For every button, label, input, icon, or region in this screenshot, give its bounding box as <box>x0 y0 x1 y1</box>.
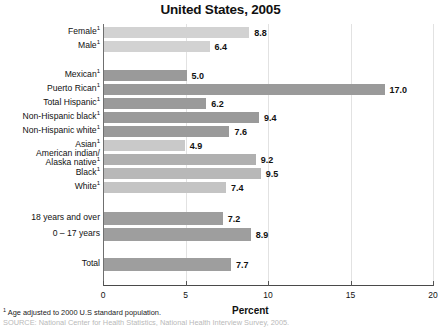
bar-value-label: 8.9 <box>256 230 269 240</box>
footnote-marker-icon: 1 <box>97 96 100 102</box>
bar-value-label: 7.4 <box>231 183 244 193</box>
footnote-marker-icon: 1 <box>97 138 100 144</box>
bar-value-label: 6.4 <box>215 42 228 52</box>
x-tick-label-20: 20 <box>428 290 437 300</box>
bar[interactable] <box>104 258 231 271</box>
category-label-line: Mexican1 <box>0 70 100 79</box>
footnote-marker-icon: 1 <box>97 124 100 130</box>
category-label-line: White1 <box>0 182 100 191</box>
footnote-marker-icon: 1 <box>97 39 100 45</box>
bar[interactable] <box>104 84 385 95</box>
x-tick-20 <box>433 281 434 286</box>
footnote-marker-icon: 1 <box>97 68 100 74</box>
footnote-age-adjusted: 1 Age adjusted to 2000 U.S standard popu… <box>3 308 161 317</box>
x-tick-15 <box>351 281 352 286</box>
bar-value-label: 9.5 <box>266 169 279 179</box>
bar-value-label: 7.2 <box>228 214 241 224</box>
bar-row[interactable]: 7.4 <box>103 182 433 193</box>
footnote-marker-icon: 1 <box>97 156 100 162</box>
category-label: Male1 <box>0 41 100 50</box>
footnote-text: Age adjusted to 2000 U.S standard popula… <box>6 308 161 317</box>
category-label: Non-Hispanic white1 <box>0 126 100 135</box>
bar-row[interactable]: 9.4 <box>103 112 433 123</box>
bar[interactable] <box>104 98 206 109</box>
bar-value-label: 6.2 <box>211 99 224 109</box>
bar-value-label: 9.4 <box>264 113 277 123</box>
bar-row[interactable]: 7.6 <box>103 126 433 137</box>
bar[interactable] <box>104 126 229 137</box>
footnote-marker-icon: 1 <box>97 166 100 172</box>
category-label: American indian/Alaska native1 <box>0 149 100 167</box>
bar-row[interactable]: 7.2 <box>103 212 433 225</box>
category-label-line: Total Hispanic1 <box>0 98 100 107</box>
plot-area: 8.86.45.017.06.29.47.64.99.29.57.47.28.9… <box>103 24 433 286</box>
category-label: Mexican1 <box>0 70 100 79</box>
bar[interactable] <box>104 228 251 241</box>
footnote-marker-icon: 1 <box>97 82 100 88</box>
chart-title: United States, 2005 <box>0 2 441 17</box>
bar-value-label: 5.0 <box>192 71 205 81</box>
category-label: White1 <box>0 182 100 191</box>
bar-value-label: 4.9 <box>190 141 203 151</box>
category-label: Black1 <box>0 168 100 177</box>
category-label: Total Hispanic1 <box>0 98 100 107</box>
bar-row[interactable]: 5.0 <box>103 70 433 81</box>
bar-value-label: 7.7 <box>236 260 249 270</box>
bar-value-label: 9.2 <box>261 155 274 165</box>
category-label-line: 18 years and over <box>0 213 100 222</box>
bar-row[interactable]: 8.8 <box>103 27 433 38</box>
bar[interactable] <box>104 168 261 179</box>
category-label-column: Female1Male1Mexican1Puerto Rican1Total H… <box>0 24 100 286</box>
bar-row[interactable]: 17.0 <box>103 84 433 95</box>
bar-row[interactable]: 8.9 <box>103 228 433 241</box>
category-label-line: Non-Hispanic black1 <box>0 112 100 121</box>
category-label-line: Black1 <box>0 168 100 177</box>
bar-row[interactable]: 9.2 <box>103 154 433 165</box>
bar-value-label: 8.8 <box>254 28 267 38</box>
category-label: Puerto Rican1 <box>0 84 100 93</box>
bar[interactable] <box>104 70 187 81</box>
footnote-marker-icon: 1 <box>97 110 100 116</box>
x-tick-5 <box>186 281 187 286</box>
x-axis-title: Percent <box>232 305 269 316</box>
x-tick-10 <box>268 281 269 286</box>
footnote-marker-icon: 1 <box>97 25 100 31</box>
x-tick-label-15: 15 <box>346 290 355 300</box>
bar[interactable] <box>104 212 223 225</box>
category-label-line: Female1 <box>0 27 100 36</box>
category-label: Total <box>0 259 100 268</box>
x-tick-0 <box>103 281 104 286</box>
bar[interactable] <box>104 140 185 151</box>
gridline-20 <box>433 24 434 286</box>
x-tick-label-0: 0 <box>101 290 106 300</box>
bar[interactable] <box>104 154 256 165</box>
bar-value-label: 7.6 <box>234 127 247 137</box>
category-label: 0 – 17 years <box>0 229 100 238</box>
bar-value-label: 17.0 <box>390 85 408 95</box>
category-label-line: Total <box>0 259 100 268</box>
category-label: 18 years and over <box>0 213 100 222</box>
bar[interactable] <box>104 182 226 193</box>
category-label-line: Male1 <box>0 41 100 50</box>
category-label-line: 0 – 17 years <box>0 229 100 238</box>
category-label: Female1 <box>0 27 100 36</box>
bar-row[interactable]: 7.7 <box>103 258 433 271</box>
bar-row[interactable]: 9.5 <box>103 168 433 179</box>
bar[interactable] <box>104 112 259 123</box>
footnote-marker-icon: 1 <box>97 180 100 186</box>
category-label-line: Alaska native1 <box>0 158 100 167</box>
x-tick-label-5: 5 <box>183 290 188 300</box>
bar-row[interactable]: 6.2 <box>103 98 433 109</box>
category-label-line: Non-Hispanic white1 <box>0 126 100 135</box>
footnote-source: SOURCE: National Center for Health Stati… <box>3 318 289 327</box>
bar-row[interactable]: 6.4 <box>103 41 433 52</box>
bar-row[interactable]: 4.9 <box>103 140 433 151</box>
bar[interactable] <box>104 27 249 38</box>
category-label: Non-Hispanic black1 <box>0 112 100 121</box>
category-label-line: Puerto Rican1 <box>0 84 100 93</box>
x-tick-label-10: 10 <box>263 290 272 300</box>
bar[interactable] <box>104 41 210 52</box>
